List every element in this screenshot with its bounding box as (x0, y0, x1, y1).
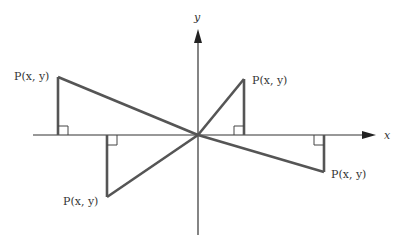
right-angle-marker (314, 135, 324, 145)
right-angle-marker (107, 135, 117, 145)
right-angle-marker (58, 126, 68, 135)
point-label-quadrant-iii: P(x, y) (63, 195, 98, 208)
triangle-quadrant-ii (58, 77, 198, 135)
triangle-quadrant-iii (107, 135, 198, 197)
point-label-quadrant-ii: P(x, y) (14, 70, 49, 83)
right-angle-marker (234, 126, 244, 135)
point-label-quadrant-iv: P(x, y) (331, 168, 366, 181)
triangle-quadrant-i (198, 79, 244, 135)
x-axis-label: x (384, 129, 391, 142)
coordinate-diagram: x y P(x, y) P(x, y) P(x, y) P(x, y) (0, 0, 408, 235)
triangle-quadrant-iv (198, 135, 324, 172)
point-label-quadrant-i: P(x, y) (252, 74, 287, 87)
x-axis-arrowhead (362, 131, 376, 139)
y-axis-arrowhead (194, 29, 202, 43)
y-axis-label: y (193, 11, 201, 24)
